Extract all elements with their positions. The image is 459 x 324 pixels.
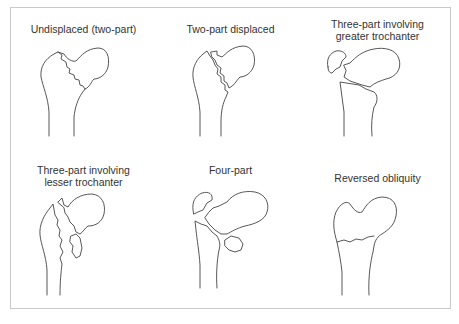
femur-reversed-obliquity-illustration bbox=[304, 160, 451, 310]
femur-two-part-displaced-illustration bbox=[157, 7, 304, 157]
femur-undisplaced-illustration bbox=[10, 7, 157, 157]
panel-two-part-displaced: Two-part displaced bbox=[157, 7, 304, 157]
panel-four-part: Four-part bbox=[157, 160, 304, 310]
panel-reversed-obliquity: Reversed obliquity bbox=[304, 160, 451, 310]
panel-three-part-lesser: Three-part involvinglesser trochanter bbox=[10, 160, 157, 310]
femur-three-part-greater-illustration bbox=[304, 7, 451, 157]
femur-three-part-lesser-illustration bbox=[10, 160, 157, 310]
panel-three-part-greater: Three-part involvinggreater trochanter bbox=[304, 7, 451, 157]
panel-undisplaced: Undisplaced (two-part) bbox=[10, 7, 157, 157]
femur-four-part-illustration bbox=[157, 160, 304, 310]
